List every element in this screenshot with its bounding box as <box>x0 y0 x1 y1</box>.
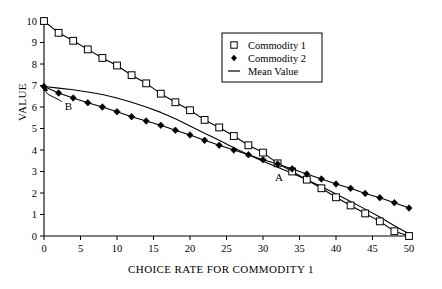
marker-filled-diamond <box>56 90 62 97</box>
marker-filled-diamond <box>318 176 324 183</box>
x-tick-label: 5 <box>78 243 83 254</box>
x-tick-label: 25 <box>221 243 232 254</box>
x-tick-label: 40 <box>331 243 342 254</box>
marker-filled-diamond <box>216 142 222 149</box>
series-line-commodity-2 <box>44 87 409 208</box>
marker-filled-diamond <box>333 181 339 188</box>
marker-open-square <box>362 210 369 217</box>
marker-filled-diamond <box>202 137 208 144</box>
marker-open-square <box>318 185 325 192</box>
marker-open-square <box>128 72 135 79</box>
y-tick-label: 10 <box>27 16 38 27</box>
marker-open-square <box>347 202 354 209</box>
marker-filled-diamond <box>187 132 193 139</box>
marker-open-square <box>230 133 237 140</box>
annotation-b-label: B <box>65 100 72 112</box>
marker-open-square <box>157 90 164 97</box>
series-line-mean-value <box>44 87 409 234</box>
marker-open-square <box>245 142 252 149</box>
marker-filled-diamond <box>362 190 368 197</box>
marker-filled-diamond <box>85 99 91 106</box>
marker-filled-diamond <box>129 113 135 120</box>
marker-open-square <box>216 124 223 131</box>
marker-open-square <box>406 233 413 240</box>
marker-filled-diamond <box>114 108 120 115</box>
marker-open-square <box>187 107 194 114</box>
legend-label: Commodity 2 <box>248 53 306 64</box>
marker-open-square <box>391 228 398 235</box>
legend-label: Commodity 1 <box>248 40 306 51</box>
y-tick-label: 7 <box>32 80 37 91</box>
x-tick-label: 45 <box>367 243 378 254</box>
x-axis-label: CHOICE RATE FOR COMMODITY 1 <box>0 263 442 275</box>
y-tick-label: 0 <box>32 231 37 242</box>
chart-figure: 01234567891005101520253035404550BACommod… <box>0 0 442 289</box>
x-tick-label: 50 <box>404 243 415 254</box>
annotation-a-label: A <box>275 171 283 183</box>
y-tick-label: 6 <box>32 102 37 113</box>
marker-open-square <box>99 55 106 62</box>
marker-filled-diamond <box>158 122 164 129</box>
y-tick-label: 8 <box>32 59 37 70</box>
plot-area: 01234567891005101520253035404550BACommod… <box>0 0 442 289</box>
marker-open-square <box>41 18 48 25</box>
x-tick-label: 20 <box>185 243 196 254</box>
marker-open-square <box>172 99 179 106</box>
x-tick-label: 10 <box>112 243 123 254</box>
marker-filled-diamond <box>99 104 105 111</box>
marker-open-square <box>260 149 267 156</box>
y-tick-label: 2 <box>32 188 37 199</box>
marker-open-square <box>70 37 77 44</box>
marker-open-square <box>376 218 383 225</box>
x-tick-label: 15 <box>148 243 159 254</box>
y-tick-label: 5 <box>32 123 37 134</box>
marker-open-square <box>114 62 121 69</box>
marker-filled-diamond <box>143 118 149 125</box>
legend-label: Mean Value <box>248 66 299 77</box>
marker-filled-diamond <box>377 194 383 201</box>
y-axis-label: VALUE <box>16 62 28 142</box>
legend-marker-open-square <box>231 42 237 48</box>
y-tick-label: 3 <box>32 166 37 177</box>
marker-filled-diamond <box>245 151 251 158</box>
y-tick-label: 4 <box>32 145 38 156</box>
x-tick-label: 30 <box>258 243 269 254</box>
marker-open-square <box>143 80 150 87</box>
y-tick-label: 9 <box>32 37 37 48</box>
marker-filled-diamond <box>348 185 354 192</box>
y-tick-label: 1 <box>32 209 37 220</box>
marker-filled-diamond <box>172 127 178 134</box>
marker-filled-diamond <box>231 147 237 154</box>
marker-filled-diamond <box>391 199 397 206</box>
marker-open-square <box>55 29 62 36</box>
x-tick-label: 35 <box>294 243 305 254</box>
marker-open-square <box>201 117 208 124</box>
marker-open-square <box>84 46 91 53</box>
x-tick-label: 0 <box>41 243 46 254</box>
marker-filled-diamond <box>406 205 412 212</box>
marker-open-square <box>333 194 340 201</box>
